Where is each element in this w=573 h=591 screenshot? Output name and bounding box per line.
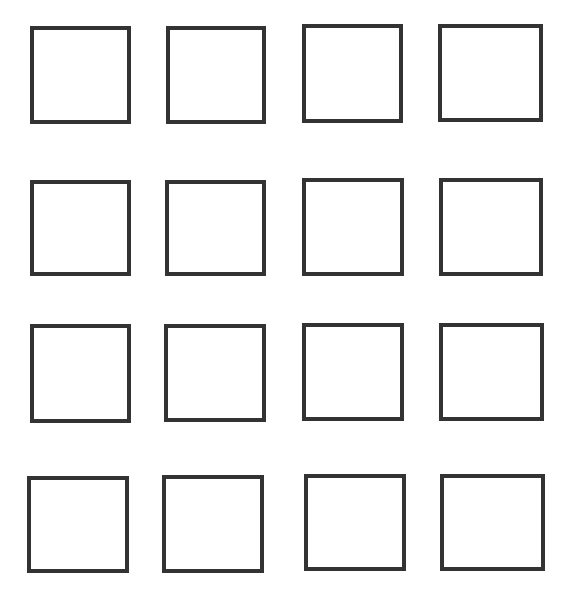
outlined-square-r4-c3 — [304, 474, 406, 571]
outlined-square-r2-c1 — [30, 180, 131, 276]
outlined-square-r3-c1 — [30, 324, 131, 423]
outlined-square-r2-c3 — [302, 178, 404, 276]
outlined-square-r1-c3 — [302, 24, 403, 123]
outlined-square-r3-c3 — [302, 323, 404, 421]
outlined-square-r4-c2 — [162, 475, 264, 573]
outlined-square-r4-c1 — [27, 476, 129, 573]
outlined-square-r1-c1 — [30, 26, 131, 124]
outlined-square-r1-c2 — [166, 26, 266, 124]
outlined-square-r3-c4 — [439, 323, 544, 421]
outlined-square-r2-c2 — [165, 180, 266, 276]
outlined-square-r2-c4 — [439, 178, 543, 276]
outlined-square-r1-c4 — [438, 24, 543, 122]
square-grid-canvas — [0, 0, 573, 591]
outlined-square-r4-c4 — [440, 474, 545, 571]
outlined-square-r3-c2 — [164, 324, 266, 422]
